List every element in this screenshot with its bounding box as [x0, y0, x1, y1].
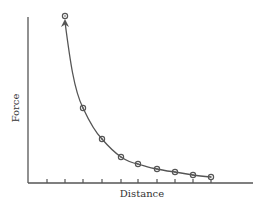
- y-axis-label: Force: [10, 94, 21, 123]
- data-points: [62, 13, 213, 179]
- force-curve: [65, 22, 211, 177]
- data-point: [118, 154, 123, 159]
- x-axis-label: Distance: [120, 188, 164, 199]
- data-point: [99, 136, 104, 141]
- force-distance-chart: Distance Force: [0, 0, 267, 210]
- data-point: [62, 13, 67, 18]
- data-point: [80, 105, 85, 110]
